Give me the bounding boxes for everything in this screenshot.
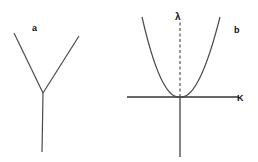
panel-a-label: a bbox=[32, 23, 38, 33]
vertical-axis-label: λ bbox=[175, 11, 181, 22]
panel-b-label: b bbox=[234, 25, 240, 35]
panel-b: λ K b bbox=[127, 11, 244, 157]
panel-a-left-arm bbox=[14, 33, 43, 93]
parabola-curve bbox=[142, 17, 220, 97]
panel-a-right-arm bbox=[43, 36, 79, 93]
panel-a: a bbox=[14, 23, 79, 152]
figure-canvas: a λ K b bbox=[0, 0, 258, 162]
horizontal-axis-label: K bbox=[237, 93, 244, 103]
panel-a-stem bbox=[42, 93, 43, 152]
